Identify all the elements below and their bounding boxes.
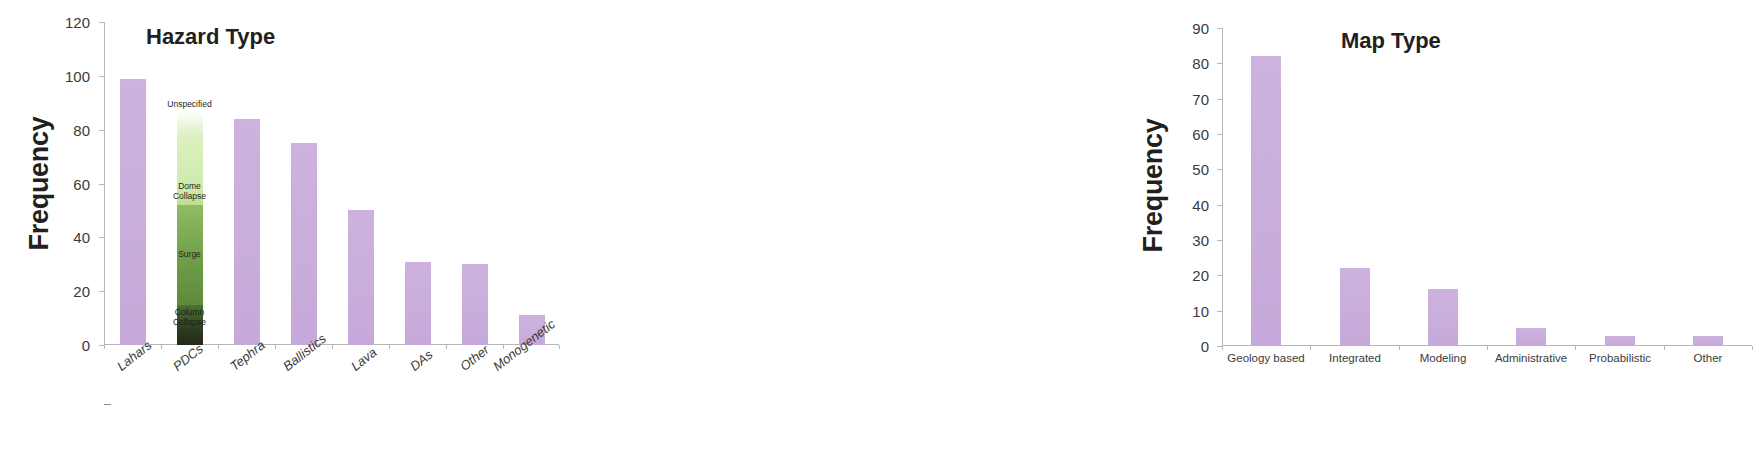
x-tick-r-6 <box>1752 346 1753 350</box>
scan-artifact-mark <box>104 404 111 405</box>
bar-slot-lava[interactable] <box>332 22 389 345</box>
y-tick-label-0: 0 <box>82 337 90 354</box>
x-label-other-map: Other <box>1694 352 1723 364</box>
bar-lahars[interactable] <box>120 79 146 345</box>
x-label-pdcs: PDCs <box>170 341 206 374</box>
bar-administrative[interactable] <box>1516 328 1546 346</box>
y-tick-label-r-20: 20 <box>1192 267 1209 284</box>
x-axis-labels-map-type: Geology based Integrated Modeling Admini… <box>1222 352 1757 392</box>
bar-probabilistic[interactable] <box>1605 336 1635 346</box>
bar-geology-based[interactable] <box>1251 56 1281 346</box>
y-tick-label-r-50: 50 <box>1192 161 1209 178</box>
y-tick-label-r-60: 60 <box>1192 125 1209 142</box>
bar-slot-integrated[interactable] <box>1310 28 1399 346</box>
bar-slot-pdcs[interactable]: Unspecified Dome Collapse Surge <box>161 22 218 345</box>
bar-integrated[interactable] <box>1340 268 1370 346</box>
plot-area-hazard-type: 120 100 80 60 40 20 0 <box>104 22 559 345</box>
bar-slot-ballistics[interactable] <box>275 22 332 345</box>
y-tick-label-40: 40 <box>73 229 90 246</box>
bar-pdcs-stacked[interactable]: Unspecified Dome Collapse Surge <box>177 111 203 345</box>
bar-lava[interactable] <box>348 210 374 345</box>
bar-other[interactable] <box>462 264 488 345</box>
segment-label-surge: Surge <box>178 249 201 259</box>
y-tick-label-60: 60 <box>73 175 90 192</box>
y-tick-label-r-10: 10 <box>1192 302 1209 319</box>
bar-group-hazard-type: Unspecified Dome Collapse Surge <box>104 22 559 345</box>
y-axis-label-right: Frequency <box>1138 106 1169 266</box>
segment-label-column-line2: Collapse <box>173 317 206 327</box>
x-tick-r-3 <box>1487 346 1488 350</box>
chart-panel-hazard-type: Frequency Hazard Type 120 100 80 60 40 2… <box>0 0 601 466</box>
segment-label-dome-line1: Dome <box>178 181 201 191</box>
plot-area-map-type: 90 80 70 60 50 40 30 20 10 0 <box>1222 28 1752 346</box>
bar-slot-das[interactable] <box>389 22 446 345</box>
segment-label-dome-line2: Collapse <box>173 191 206 201</box>
y-tick-label-r-80: 80 <box>1192 55 1209 72</box>
segment-label-column-collapse: Column Collapse <box>173 307 206 327</box>
bar-segment-unspecified[interactable]: Unspecified <box>177 111 203 168</box>
y-tick-label-r-0: 0 <box>1201 338 1209 355</box>
bar-group-map-type <box>1222 28 1752 346</box>
bar-slot-other[interactable] <box>446 22 503 345</box>
x-tick-r-0 <box>1222 346 1223 350</box>
y-tick-label-r-90: 90 <box>1192 20 1209 37</box>
x-label-other: Other <box>457 342 492 374</box>
bar-slot-geology-based[interactable] <box>1222 28 1310 346</box>
x-label-probabilistic: Probabilistic <box>1589 352 1651 364</box>
y-tick-label-20: 20 <box>73 283 90 300</box>
bar-segment-surge[interactable]: Surge <box>177 205 203 305</box>
bar-das[interactable] <box>405 262 431 345</box>
x-label-geology-based: Geology based <box>1227 352 1304 364</box>
bar-segment-dome-collapse[interactable]: Dome Collapse <box>177 167 203 205</box>
x-label-lava: Lava <box>348 345 379 374</box>
x-label-das: DAs <box>407 347 436 374</box>
x-label-modeling: Modeling <box>1420 352 1467 364</box>
bar-segment-column-collapse[interactable]: Column Collapse <box>177 305 203 345</box>
y-tick-label-120: 120 <box>65 14 90 31</box>
x-label-integrated: Integrated <box>1329 352 1381 364</box>
x-tick-r-2 <box>1399 346 1400 350</box>
x-tick-r-5 <box>1664 346 1665 350</box>
bar-slot-modeling[interactable] <box>1399 28 1487 346</box>
bar-ballistics[interactable] <box>291 143 317 345</box>
y-axis-label-left: Frequency <box>24 104 55 264</box>
x-label-administrative: Administrative <box>1495 352 1567 364</box>
bar-slot-administrative[interactable] <box>1487 28 1575 346</box>
chart-panel-map-type: Frequency Map Type 90 80 70 60 50 40 30 … <box>580 0 1202 466</box>
bar-tephra[interactable] <box>234 119 260 345</box>
bar-slot-probabilistic[interactable] <box>1575 28 1664 346</box>
bar-slot-other-map[interactable] <box>1664 28 1752 346</box>
bar-slot-lahars[interactable] <box>104 22 161 345</box>
y-tick-label-r-40: 40 <box>1192 196 1209 213</box>
y-tick-label-100: 100 <box>65 67 90 84</box>
x-axis-labels-hazard-type: Lahars PDCs Tephra Ballistics Lava DAs O… <box>104 348 564 458</box>
bar-modeling[interactable] <box>1428 289 1458 346</box>
x-tick-r-4 <box>1575 346 1576 350</box>
segment-label-column-line1: Column <box>175 307 204 317</box>
y-tick-label-r-70: 70 <box>1192 90 1209 107</box>
bar-slot-monogenetic[interactable] <box>503 22 560 345</box>
y-tick-label-r-30: 30 <box>1192 232 1209 249</box>
segment-label-dome-collapse: Dome Collapse <box>173 181 206 201</box>
bar-slot-tephra[interactable] <box>218 22 275 345</box>
segment-label-unspecified: Unspecified <box>167 99 211 109</box>
y-tick-label-80: 80 <box>73 121 90 138</box>
x-tick-r-1 <box>1310 346 1311 350</box>
bar-other-map[interactable] <box>1693 336 1723 346</box>
